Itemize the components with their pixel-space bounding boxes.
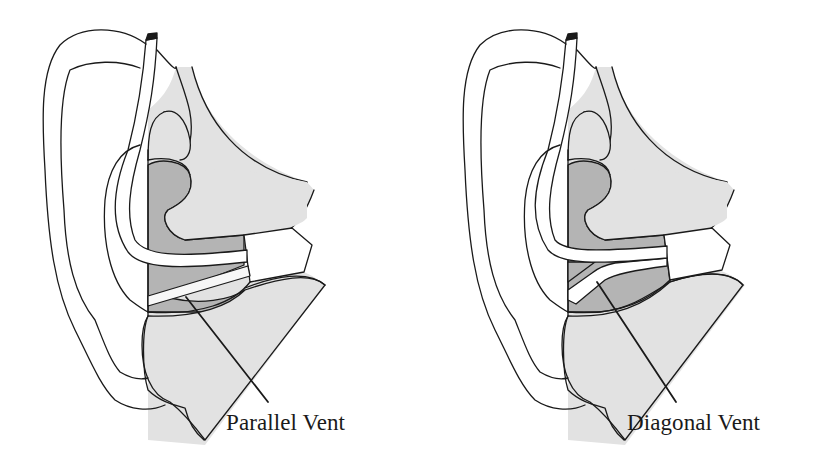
diagonal-vent-figure: Diagonal Vent [420, 0, 813, 464]
helix-top-link [577, 50, 596, 68]
parallel-vent-figure: Parallel Vent [0, 0, 410, 464]
tube-tip [566, 33, 577, 40]
diagonal-vent-caption: Diagonal Vent [627, 410, 760, 436]
parallel-vent-caption: Parallel Vent [226, 410, 345, 436]
tube-tip [146, 33, 157, 40]
helix-top-link [157, 50, 176, 68]
diagonal-vent-diagram [420, 0, 813, 464]
parallel-vent-diagram [0, 0, 410, 464]
